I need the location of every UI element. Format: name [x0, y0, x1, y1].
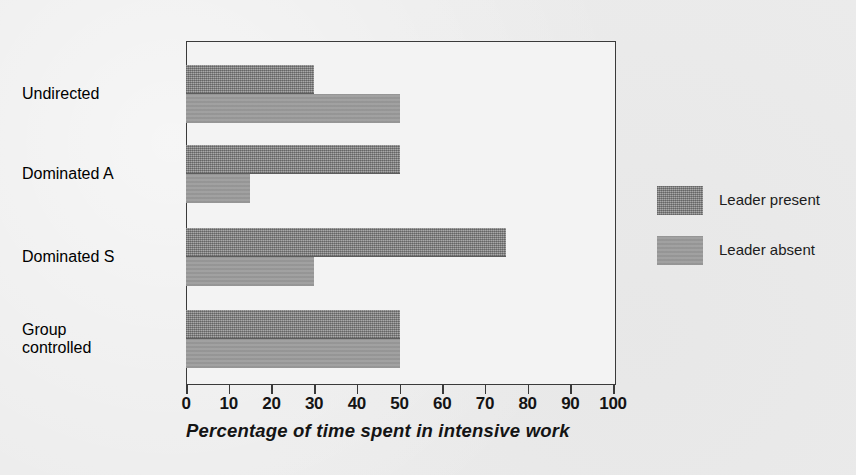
x-axis-tick	[528, 385, 530, 394]
x-axis-tick-label: 80	[518, 394, 536, 414]
category-label: Dominated A	[22, 165, 186, 183]
x-axis-tick-label: 90	[561, 394, 579, 414]
x-axis-tick	[613, 385, 615, 394]
x-axis-tick-label: 30	[305, 394, 323, 414]
x-axis-ticks	[186, 385, 616, 394]
legend-label: Leader present	[719, 191, 820, 208]
x-axis-tick-label: 60	[433, 394, 451, 414]
bar	[186, 174, 250, 203]
x-axis-tick	[357, 385, 359, 394]
x-axis-tick-label: 70	[476, 394, 494, 414]
category-label-line: Undirected	[22, 85, 186, 103]
legend-swatch	[657, 236, 703, 265]
category-label-line: Group	[22, 321, 186, 339]
category-label: Undirected	[22, 85, 186, 103]
bar	[186, 228, 506, 257]
x-axis-tick-labels: 0102030405060708090100	[186, 394, 616, 418]
bar	[186, 94, 400, 123]
x-axis-tick-label: 100	[599, 394, 626, 414]
x-axis-tick	[229, 385, 231, 394]
x-axis-tick-label: 20	[262, 394, 280, 414]
bar	[186, 145, 400, 174]
bar	[186, 310, 400, 339]
bar	[186, 65, 314, 94]
category-label-line: controlled	[22, 339, 186, 357]
x-axis-tick-label: 40	[348, 394, 366, 414]
category-label-line: Dominated S	[22, 248, 186, 266]
x-axis-tick	[400, 385, 402, 394]
chart-legend: Leader presentLeader absent	[657, 186, 847, 286]
bar	[186, 257, 314, 286]
x-axis-tick-label: 50	[390, 394, 408, 414]
x-axis-title: Percentage of time spent in intensive wo…	[186, 420, 626, 442]
category-axis-labels: UndirectedDominated ADominated SGroupcon…	[0, 41, 186, 385]
legend-item: Leader absent	[657, 236, 847, 286]
legend-item: Leader present	[657, 186, 847, 236]
category-label: Groupcontrolled	[22, 321, 186, 357]
legend-swatch	[657, 186, 703, 215]
category-label: Dominated S	[22, 248, 186, 266]
x-axis-tick	[570, 385, 572, 394]
legend-label: Leader absent	[719, 241, 815, 258]
x-axis-tick-label: 10	[220, 394, 238, 414]
x-axis-tick	[485, 385, 487, 394]
x-axis-tick	[186, 385, 188, 394]
x-axis-tick	[442, 385, 444, 394]
x-axis-tick	[314, 385, 316, 394]
bar	[186, 339, 400, 368]
x-axis-tick-label: 0	[181, 394, 190, 414]
figure-canvas: UndirectedDominated ADominated SGroupcon…	[0, 0, 856, 475]
category-label-line: Dominated A	[22, 165, 186, 183]
x-axis-tick	[271, 385, 273, 394]
